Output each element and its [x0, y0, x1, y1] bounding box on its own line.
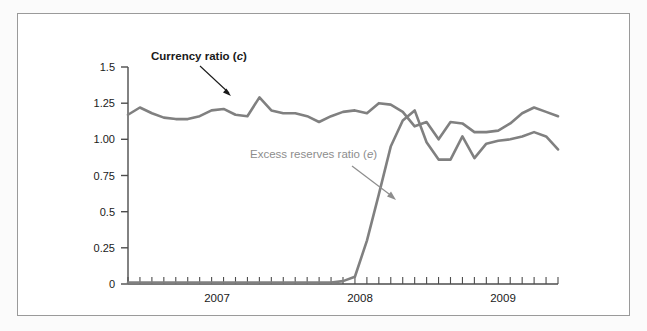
y-tick-label-0: 0 — [109, 278, 115, 290]
excess-reserves-label: Excess reserves ratio (e) — [250, 148, 377, 160]
x-tick-label-2009: 2009 — [490, 292, 516, 304]
series-line-excess-reserves-ratio — [128, 110, 558, 282]
x-tick-label-2007: 2007 — [204, 292, 230, 304]
currency-ratio-arrow-shaft — [200, 66, 229, 93]
figure-frame: 1.5 1.25 1.00 0.75 0.5 0.25 0 2007 2008 … — [17, 13, 630, 316]
y-tick-label-1-00: 1.00 — [94, 133, 115, 145]
excess-reserves-label-suffix: ) — [373, 148, 377, 160]
currency-ratio-label: Currency ratio (c) — [151, 50, 247, 62]
excess-reserves-label-prefix: Excess reserves ratio ( — [250, 148, 367, 160]
excess-reserves-annotation: Excess reserves ratio (e) — [250, 148, 396, 200]
y-tick-label-1-25: 1.25 — [94, 97, 115, 109]
currency-ratio-label-suffix: ) — [243, 50, 247, 62]
series-line-currency-ratio — [128, 97, 558, 139]
currency-ratio-label-prefix: Currency ratio ( — [151, 50, 237, 62]
y-tick-label-0-75: 0.75 — [94, 170, 115, 182]
x-tick-label-2008: 2008 — [347, 292, 373, 304]
y-tick-label-0-5: 0.5 — [100, 206, 115, 218]
chart-plot-area: 1.5 1.25 1.00 0.75 0.5 0.25 0 2007 2008 … — [18, 14, 631, 317]
currency-ratio-arrow-head — [223, 89, 231, 97]
figure-root: 1.5 1.25 1.00 0.75 0.5 0.25 0 2007 2008 … — [0, 0, 647, 331]
excess-reserves-arrow-shaft — [352, 166, 393, 197]
y-tick-label-0-25: 0.25 — [94, 242, 115, 254]
currency-ratio-annotation: Currency ratio (c) — [151, 50, 247, 96]
y-axis: 1.5 1.25 1.00 0.75 0.5 0.25 0 — [94, 61, 128, 290]
y-tick-label-1-5: 1.5 — [100, 61, 115, 73]
